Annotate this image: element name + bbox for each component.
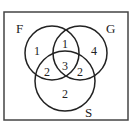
- set-label-f: F: [16, 21, 23, 36]
- region-f-and-g: 1: [62, 37, 68, 51]
- venn-diagram: F G S 1 1 4 2 3 2 2: [0, 0, 134, 128]
- region-g-only: 4: [91, 44, 97, 58]
- region-f-g-s: 3: [62, 59, 68, 73]
- region-s-only: 2: [62, 87, 68, 101]
- region-f-and-s: 2: [44, 65, 50, 79]
- region-f-only: 1: [34, 44, 40, 58]
- set-label-g: G: [106, 21, 115, 36]
- region-g-and-s: 2: [77, 65, 83, 79]
- set-label-s: S: [85, 105, 92, 120]
